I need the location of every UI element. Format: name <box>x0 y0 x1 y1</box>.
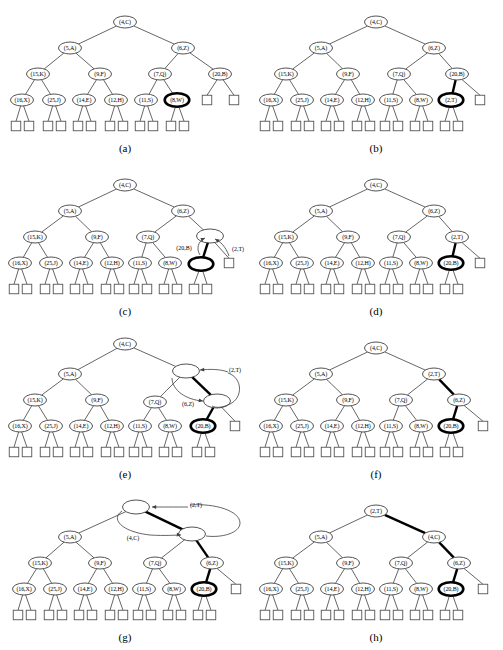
tree-node-n-14e[interactable]: (14,E) <box>321 583 344 595</box>
tree-node-n-8w[interactable]: (8,W) <box>159 420 182 432</box>
tree-node-n-14e[interactable]: (14,E) <box>321 420 344 432</box>
tree-node-n-16x[interactable]: (16,X) <box>260 583 283 595</box>
tree-node-n-25j[interactable]: (25,J) <box>43 94 66 106</box>
leaf-square[interactable] <box>393 610 403 620</box>
tree-node-n-12h[interactable]: (12,H) <box>105 583 128 595</box>
leaf-square[interactable] <box>260 610 270 620</box>
leaf-square[interactable] <box>87 610 97 620</box>
tree-node-n-7q[interactable]: (7,Q) <box>390 394 413 406</box>
tree-node-n-25j[interactable]: (25,J) <box>40 420 63 432</box>
tree-node-n-11s[interactable]: (11,S) <box>135 94 158 106</box>
leaf-square[interactable] <box>478 421 488 431</box>
leaf-square[interactable] <box>129 284 139 294</box>
tree-node-n-16x[interactable]: (16,X) <box>260 257 283 269</box>
tree-node-n-8w[interactable]: (8,W) <box>410 94 433 106</box>
leaf-square[interactable] <box>26 610 36 620</box>
tree-node-n-14e[interactable]: (14,E) <box>73 94 96 106</box>
tree-node-n-14e[interactable]: (14,E) <box>70 420 93 432</box>
tree-node-n-6z[interactable]: (6,Z) <box>201 557 224 569</box>
leaf-square[interactable] <box>410 610 420 620</box>
leaf-square[interactable] <box>133 610 143 620</box>
leaf-square[interactable] <box>352 284 362 294</box>
tree-node-n-5a[interactable]: (5,A) <box>310 531 333 543</box>
tree-node-n-8w[interactable]: (8,W) <box>163 583 186 595</box>
tree-node-n-8w[interactable]: (8,W) <box>165 93 190 107</box>
leaf-square[interactable] <box>86 121 96 131</box>
tree-node-n-8w[interactable]: (8,W) <box>159 257 182 269</box>
tree-node-n-11s[interactable]: (11,S) <box>380 583 403 595</box>
tree-node-n-2t[interactable]: (2,T) <box>439 93 464 107</box>
leaf-square[interactable] <box>365 610 375 620</box>
leaf-square[interactable] <box>114 447 124 457</box>
tree-node-n-5a[interactable]: (5,A) <box>59 205 82 217</box>
leaf-square[interactable] <box>352 447 362 457</box>
leaf-square[interactable] <box>40 284 50 294</box>
leaf-square[interactable] <box>393 284 403 294</box>
leaf-square[interactable] <box>365 284 375 294</box>
leaf-square[interactable] <box>321 121 331 131</box>
leaf-square[interactable] <box>142 447 152 457</box>
tree-node-n-5a[interactable]: (5,A) <box>310 368 333 380</box>
leaf-square[interactable] <box>453 284 463 294</box>
tree-node-n-20b[interactable]: (20,B) <box>439 256 464 270</box>
leaf-square[interactable] <box>380 610 390 620</box>
leaf-square[interactable] <box>230 421 240 431</box>
tree-node-n-7q[interactable]: (7,Q) <box>388 231 411 243</box>
tree-node-n-11s[interactable]: (11,S) <box>380 420 403 432</box>
leaf-square[interactable] <box>192 447 202 457</box>
tree-node-n-20b[interactable]: (20,B) <box>439 582 464 596</box>
tree-node-n-12h[interactable]: (12,H) <box>101 257 124 269</box>
leaf-square[interactable] <box>53 284 63 294</box>
leaf-square[interactable] <box>53 447 63 457</box>
leaf-square[interactable] <box>423 610 433 620</box>
tree-node-n-8w[interactable]: (8,W) <box>410 420 433 432</box>
leaf-square[interactable] <box>118 610 128 620</box>
leaf-square[interactable] <box>423 121 433 131</box>
leaf-square[interactable] <box>321 610 331 620</box>
tree-node-n-15k[interactable]: (15,K) <box>275 231 298 243</box>
leaf-square[interactable] <box>304 284 314 294</box>
tree-node-n-25j[interactable]: (25,J) <box>291 94 314 106</box>
leaf-square[interactable] <box>70 447 80 457</box>
leaf-square[interactable] <box>365 121 375 131</box>
tree-node-n-25j[interactable]: (25,J) <box>44 583 67 595</box>
tree-node-n-16x[interactable]: (16,X) <box>260 420 283 432</box>
leaf-square[interactable] <box>13 610 23 620</box>
leaf-square[interactable] <box>56 121 66 131</box>
leaf-square[interactable] <box>166 121 176 131</box>
leaf-square[interactable] <box>365 447 375 457</box>
tree-node-n-7q[interactable]: (7,Q) <box>144 557 167 569</box>
leaf-square[interactable] <box>206 610 216 620</box>
leaf-square[interactable] <box>273 284 283 294</box>
tree-node-n-20b-moved[interactable] <box>189 257 214 271</box>
tree-node-n-9f[interactable]: (9,F) <box>337 557 360 569</box>
leaf-square[interactable] <box>475 95 485 105</box>
tree-node-n-25j[interactable]: (25,J) <box>291 257 314 269</box>
tree-node-n-7q[interactable]: (7,Q) <box>137 231 160 243</box>
leaf-square[interactable] <box>159 284 169 294</box>
tree-node-n-8w[interactable]: (8,W) <box>410 583 433 595</box>
leaf-square[interactable] <box>380 447 390 457</box>
tree-node-n-12h[interactable]: (12,H) <box>352 583 375 595</box>
tree-node-n-9f[interactable]: (9,F) <box>337 394 360 406</box>
leaf-square[interactable] <box>105 610 115 620</box>
leaf-square[interactable] <box>475 258 485 268</box>
tree-node-n-9f[interactable]: (9,F) <box>337 231 360 243</box>
leaf-square[interactable] <box>22 447 32 457</box>
leaf-square[interactable] <box>163 610 173 620</box>
tree-node-n-15k[interactable]: (15,K) <box>29 557 52 569</box>
empty-node-right-slot[interactable] <box>179 527 206 541</box>
tree-node-n-14e[interactable]: (14,E) <box>70 257 93 269</box>
leaf-square[interactable] <box>70 284 80 294</box>
leaf-square[interactable] <box>229 95 239 105</box>
tree-node-root[interactable]: (4,C) <box>365 179 388 191</box>
tree-node-root[interactable]: (2,T) <box>365 505 388 517</box>
leaf-square[interactable] <box>291 610 301 620</box>
tree-node-n-8w[interactable]: (8,W) <box>410 257 433 269</box>
leaf-square[interactable] <box>224 258 234 268</box>
tree-node-n-14e[interactable]: (14,E) <box>74 583 97 595</box>
leaf-square[interactable] <box>148 121 158 131</box>
leaf-square[interactable] <box>43 121 53 131</box>
tree-node-n-7q[interactable]: (7,Q) <box>149 68 172 80</box>
leaf-square[interactable] <box>22 284 32 294</box>
